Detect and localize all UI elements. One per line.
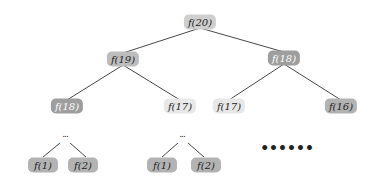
tree-edge [67, 65, 123, 100]
tree-node-f20: f(20) [184, 15, 216, 30]
ellipsis-left: ... [62, 129, 68, 139]
tree-node-f16: f(16) [325, 99, 357, 114]
tree-node-f17: f(17) [213, 99, 245, 114]
tree-edge [162, 143, 178, 157]
tree-node-f2: f(2) [68, 158, 98, 173]
tree-node-f1: f(1) [147, 158, 177, 173]
tree-node-f2: f(2) [191, 158, 221, 173]
tree-node-f19: f(19) [107, 52, 139, 67]
tree-node-f18: f(18) [51, 99, 83, 114]
tree-edge [284, 64, 341, 100]
tree-edge [200, 28, 284, 52]
tree-edge [123, 65, 180, 100]
tree-edge [229, 64, 284, 100]
tree-node-f1: f(1) [28, 158, 58, 173]
tree-edge [43, 143, 60, 157]
tree-edge [188, 143, 204, 157]
ellipsis-middle: ... [179, 129, 185, 139]
tree-edge [123, 28, 200, 53]
more-nodes-dots: •••••• [260, 143, 314, 153]
tree-edge [70, 143, 86, 157]
tree-node-f17: f(17) [164, 99, 196, 114]
tree-node-f18: f(18) [268, 51, 300, 66]
